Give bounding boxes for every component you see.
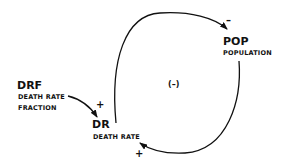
sign-dr-pop: –: [226, 16, 231, 26]
arrow-drf-to-dr: [68, 96, 97, 117]
sign-pop-dr: +: [135, 149, 143, 159]
dr-abbr: DR: [92, 119, 110, 130]
drf-abbr: DRF: [17, 80, 42, 91]
drf-name-line2: FRACTION: [18, 105, 57, 112]
drf-name-line1: DEATH RATE: [18, 94, 65, 101]
arrow-dr-to-pop: [115, 13, 227, 123]
dr-name: DEATH RATE: [93, 134, 140, 141]
arrow-pop-to-dr: [140, 61, 239, 153]
loop-polarity: (–): [168, 81, 179, 89]
pop-name: POPULATION: [223, 50, 272, 57]
loop-arrows: [0, 0, 294, 166]
pop-abbr: POP: [223, 36, 248, 47]
sign-drf-dr: +: [96, 100, 104, 110]
